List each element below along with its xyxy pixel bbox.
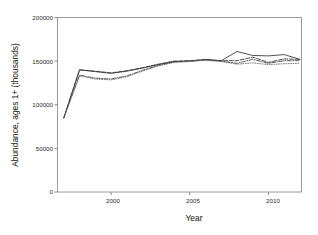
y-axis-title: Abundance, ages 1+ (thousands) [10,43,20,167]
line-series-dashed [64,57,300,118]
ytick-label-50000: 50000 [36,145,54,152]
line-series-dotted [64,60,300,118]
xtick-label-2005: 2005 [186,197,200,204]
xtick-label-2000: 2000 [106,197,120,204]
series-layer [64,52,300,118]
chart-figure: 200000 150000 100000 50000 0 2000 2005 2… [0,0,318,235]
plot-frame [58,18,302,193]
ytick-label-100000: 100000 [32,101,53,108]
xtick-label-2010: 2010 [266,197,280,204]
ytick-label-0: 0 [50,188,54,195]
x-axis-title: Year [186,213,203,223]
line-chart: 200000 150000 100000 50000 0 2000 2005 2… [0,0,318,235]
line-series-dashdot [64,59,300,117]
ytick-label-150000: 150000 [32,58,53,65]
ytick-label-200000: 200000 [32,14,53,21]
